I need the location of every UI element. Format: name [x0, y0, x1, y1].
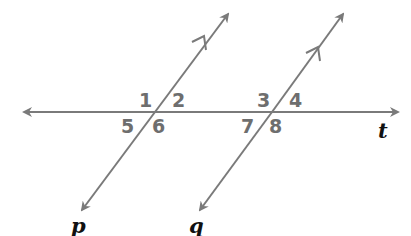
- angle-label-2: 2: [172, 89, 185, 111]
- line-label-t: t: [378, 118, 388, 143]
- angle-label-6: 6: [152, 115, 165, 137]
- angle-label-8: 8: [269, 115, 282, 137]
- line-label-q: q: [189, 213, 204, 236]
- angle-label-4: 4: [289, 89, 302, 111]
- line-label-p: p: [71, 213, 86, 236]
- angle-label-5: 5: [121, 115, 134, 137]
- line-p-bottom-arrow-icon: [82, 112, 155, 210]
- line-q-bottom-arrow-icon: [200, 112, 272, 210]
- parallel-lines-transversal-diagram: 1 2 5 6 3 4 7 8 t p q: [0, 0, 411, 236]
- angle-label-1: 1: [139, 89, 152, 111]
- line-q-top-arrow-icon: [272, 14, 343, 112]
- line-p-top-arrow-icon: [155, 14, 228, 112]
- angle-label-3: 3: [257, 89, 270, 111]
- angle-label-7: 7: [241, 115, 254, 137]
